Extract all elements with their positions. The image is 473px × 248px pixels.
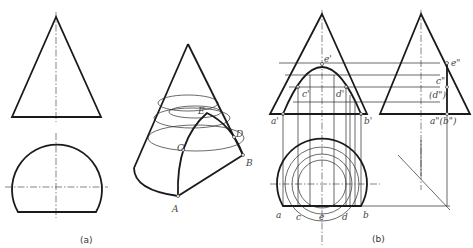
label-c-double-prime: c"	[436, 76, 445, 86]
view-b-top: a c e d b	[270, 139, 450, 222]
view-b-side: e" c" (d") a"(b")	[380, 10, 470, 210]
label-e-double-prime: e"	[451, 58, 460, 68]
view-a-top-section	[5, 133, 108, 218]
label-b-prime: b'	[364, 116, 372, 126]
label-D: D	[235, 129, 243, 139]
label-a-prime: a'	[271, 116, 279, 126]
label-a: a	[276, 210, 281, 220]
label-d-double-prime: (d")	[429, 90, 446, 100]
label-c-prime: c'	[302, 89, 310, 99]
label-B: B	[245, 158, 253, 168]
caption-a: (a)	[80, 235, 93, 245]
caption-b: (b)	[372, 234, 385, 244]
label-ab-double-prime: a"(b")	[430, 116, 457, 126]
label-E: E	[197, 106, 205, 116]
cone-section-drawing: A B C D E (a) e' c' d' a' b'	[0, 0, 473, 248]
view-a-isometric-cone: A B C D E	[134, 44, 253, 214]
label-c: c	[296, 212, 301, 222]
label-A: A	[171, 204, 179, 214]
label-b: b	[363, 210, 369, 220]
label-d: d	[342, 212, 348, 222]
label-C: C	[177, 143, 184, 153]
label-e: e	[319, 212, 324, 222]
view-a-front-triangle	[12, 12, 101, 122]
label-e-prime: e'	[324, 54, 332, 64]
label-d-prime: d'	[336, 89, 344, 99]
